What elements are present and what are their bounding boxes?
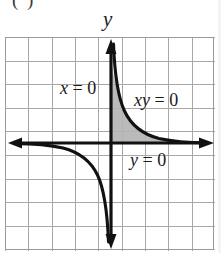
annotation-x-equals-zero: x = 0 — [60, 78, 96, 99]
page-edge — [218, 0, 221, 253]
plot-canvas — [0, 0, 221, 253]
annotation-xy-equals-zero: xy = 0 — [134, 90, 178, 111]
hyperbola-figure: ( ) y x = 0 xy = 0 y = 0 — [0, 0, 221, 253]
annotation-y-equals-zero: y = 0 — [130, 150, 166, 171]
hyperbola-branch-quadrant-3 — [16, 144, 109, 242]
